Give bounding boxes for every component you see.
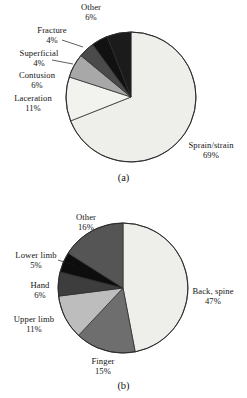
slice-label-pct: 6% [17,290,63,300]
slice-label-pct: 5% [5,260,67,270]
slice-label-text: Laceration [14,93,52,103]
slice-label-text: Contusion [19,70,55,80]
slice-label-pct: 16% [58,222,114,232]
slice-label-hand-b: Hand 6% [17,280,63,300]
slice-label-text: Lower limb [15,250,56,260]
slice-label-back-spine-b: Back, spine 47% [182,286,244,306]
slice-label-superficial-a: Superficial 4% [9,48,69,68]
panel-caption-a: (a) [0,172,247,183]
slice-label-finger-b: Finger 15% [78,356,128,376]
slice-label-fracture-a: Fracture 4% [24,25,80,45]
panel-a: Other 6% Fracture 4% Superficial 4% Cont… [0,0,247,198]
figure-two-pie-charts: Other 6% Fracture 4% Superficial 4% Cont… [0,0,247,398]
slice-label-pct: 11% [2,103,64,113]
slice-label-pct: 4% [9,58,69,68]
slice-label-pct: 11% [2,324,66,334]
slice-label-pct: 69% [178,150,244,160]
slice-label-pct: 15% [78,366,128,376]
slice-label-contusion-a: Contusion 6% [8,70,66,90]
slice-label-text: Back, spine [192,286,233,296]
slice-label-pct: 47% [182,296,244,306]
slice-label-sprain-strain-a: Sprain/strain 69% [178,140,244,160]
slice-label-text: Fracture [37,25,66,35]
slice-label-pct: 4% [24,35,80,45]
pie-b-slice-back-spine [123,223,188,352]
slice-label-text: Finger [91,356,114,366]
slice-label-text: Other [81,2,101,12]
slice-label-text: Hand [30,280,49,290]
slice-label-text: Other [76,212,96,222]
slice-label-text: Upper limb [14,314,54,324]
panel-caption-b: (b) [0,380,247,391]
slice-label-upper-limb-b: Upper limb 11% [2,314,66,334]
panel-b: Other 16% Lower limb 5% Hand 6% Upper li… [0,198,247,398]
slice-label-other-b: Other 16% [58,212,114,232]
slice-label-pct: 6% [63,12,119,22]
slice-label-lower-limb-b: Lower limb 5% [5,250,67,270]
slice-label-text: Sprain/strain [188,140,233,150]
slice-label-text: Superficial [20,48,59,58]
slice-label-other-a: Other 6% [63,2,119,22]
slice-label-pct: 6% [8,80,66,90]
slice-label-laceration-a: Laceration 11% [2,93,64,113]
